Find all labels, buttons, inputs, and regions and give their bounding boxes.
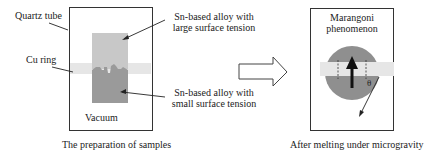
left-caption: The preparation of samples — [62, 139, 171, 150]
upper-alloy-sample — [92, 33, 128, 69]
marangoni-title-line2: phenomenon — [311, 23, 393, 34]
lower-alloy-pointer — [122, 92, 165, 97]
upper-alloy-pointer — [124, 20, 165, 39]
transition-arrow-icon — [239, 57, 287, 86]
lower-alloy-label-line2: small surface tension — [164, 98, 264, 109]
quartz-tube-pointer — [49, 23, 68, 30]
cu-ring-label: Cu ring — [26, 54, 56, 65]
upper-alloy-label: Sn-based alloy with large surface tensio… — [164, 11, 264, 33]
vacuum-label: Vacuum — [85, 112, 118, 123]
upper-alloy-label-line1: Sn-based alloy with — [164, 11, 264, 22]
theta-label: θ — [367, 78, 371, 89]
lower-alloy-label-line1: Sn-based alloy with — [164, 87, 264, 98]
contact-angle-arrow-head — [359, 110, 364, 117]
upper-alloy-label-line2: large surface tension — [164, 22, 264, 33]
quartz-tube-label: Quartz tube — [15, 10, 62, 21]
marangoni-title-line1: Marangoni — [311, 12, 393, 23]
lower-alloy-label: Sn-based alloy with small surface tensio… — [164, 87, 264, 109]
right-caption: After melting under microgravity — [290, 139, 424, 150]
marangoni-title: Marangoni phenomenon — [311, 12, 393, 34]
